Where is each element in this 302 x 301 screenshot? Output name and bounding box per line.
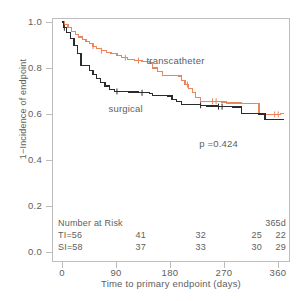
ytick-mark-0.0 bbox=[46, 252, 52, 253]
surgical-label: surgical bbox=[109, 103, 143, 114]
risk-table-row-transcatheter: TI=56 41 32 25 22 bbox=[58, 230, 286, 242]
ytick-mark-0.6 bbox=[46, 114, 52, 115]
ytick-label-1.0: 1.0 bbox=[12, 16, 42, 27]
ytick-mark-0.4 bbox=[46, 160, 52, 161]
xtick-label-90: 90 bbox=[96, 267, 136, 278]
risk-table-header-row: Number at Risk 365d bbox=[58, 218, 286, 230]
ytick-mark-1.0 bbox=[46, 22, 52, 23]
p-value-annotation: p =0.424 bbox=[199, 138, 238, 149]
transcatheter-label: transcatheter bbox=[146, 55, 204, 66]
risk-ti-365: 22 bbox=[58, 230, 286, 240]
xtick-label-180: 180 bbox=[150, 267, 190, 278]
ytick-label-0.2: 0.2 bbox=[12, 200, 42, 211]
kaplan-meier-figure: 1.0 0.8 0.6 0.4 0.2 0.0 1−Incidence of e… bbox=[0, 0, 302, 301]
xtick-label-270: 270 bbox=[204, 267, 244, 278]
risk-table-row-surgical: SI=58 37 33 30 29 bbox=[58, 242, 286, 254]
risk-table-365d-header: 365d bbox=[265, 218, 286, 228]
y-axis-title: 1−Incidence of endpoint bbox=[18, 34, 28, 184]
number-at-risk-table: Number at Risk 365d TI=56 41 32 25 22 SI… bbox=[58, 218, 286, 254]
risk-si-365: 29 bbox=[58, 242, 286, 252]
ytick-label-0.0: 0.0 bbox=[12, 246, 42, 257]
risk-table-title: Number at Risk bbox=[58, 218, 123, 228]
x-axis-title: Time to primary endpoint (days) bbox=[52, 278, 290, 289]
ytick-mark-0.8 bbox=[46, 68, 52, 69]
xtick-label-0: 0 bbox=[42, 267, 82, 278]
xtick-label-360: 360 bbox=[258, 267, 298, 278]
ytick-mark-0.2 bbox=[46, 206, 52, 207]
